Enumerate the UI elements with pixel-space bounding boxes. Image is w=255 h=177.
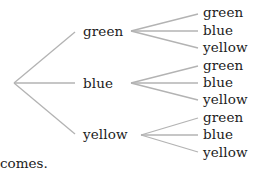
leaf-blue-yellow: yellow bbox=[203, 91, 248, 107]
leaf-yellow-blue: blue bbox=[203, 126, 233, 142]
leaf-blue-green: green bbox=[203, 57, 243, 73]
branch-blue-green bbox=[131, 66, 198, 83]
branch-yellow-green bbox=[141, 118, 198, 135]
branch-green-green bbox=[131, 14, 198, 31]
leaf-blue-blue: blue bbox=[203, 74, 233, 90]
node-blue: blue bbox=[83, 75, 113, 91]
node-green: green bbox=[83, 23, 123, 39]
branch-blue-yellow bbox=[131, 83, 198, 100]
leaf-green-green: green bbox=[203, 4, 243, 20]
branch-yellow-yellow bbox=[141, 135, 198, 152]
caption-text: comes. bbox=[0, 155, 48, 171]
node-yellow: yellow bbox=[83, 126, 128, 142]
branch-green-yellow bbox=[131, 31, 198, 48]
leaf-green-yellow: yellow bbox=[203, 39, 248, 55]
branch-root-yellow bbox=[14, 83, 75, 134]
branch-root-green bbox=[14, 32, 75, 83]
leaf-yellow-yellow: yellow bbox=[203, 144, 248, 160]
leaf-green-blue: blue bbox=[203, 22, 233, 38]
leaf-yellow-green: green bbox=[203, 109, 243, 125]
